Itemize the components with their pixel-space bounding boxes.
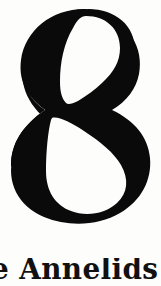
numeral-eight-icon [0, 0, 161, 232]
chapter-number-figure: 8 [0, 0, 161, 232]
book-page: 8 e Annelids [0, 0, 161, 286]
chapter-heading: e Annelids [0, 258, 161, 286]
chapter-heading-text: e Annelids [0, 258, 158, 284]
